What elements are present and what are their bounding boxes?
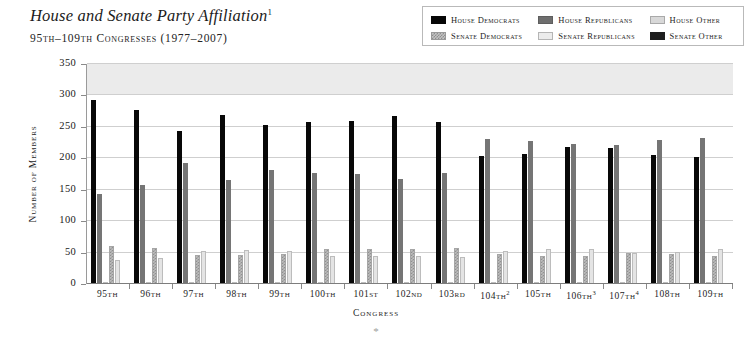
legend-item-house-other: House Other: [650, 15, 743, 25]
bar-group: [690, 64, 733, 284]
bar-house-democrats: [436, 122, 441, 284]
legend-label-house-republicans: House Republicans: [558, 15, 632, 25]
bar-senate-democrats: [669, 254, 674, 284]
bar-senate-republicans: [718, 249, 723, 284]
y-axis-tick: [81, 284, 86, 285]
chart-title: House and Senate Party Affiliation1: [30, 6, 272, 26]
bar-set: [432, 64, 475, 284]
x-axis-tick: [732, 284, 733, 289]
bar-house-republicans: [528, 141, 533, 284]
bar-house-democrats: [608, 148, 613, 284]
bar-set: [518, 64, 561, 284]
bar-senate-democrats: [454, 248, 459, 284]
bar-set: [130, 64, 173, 284]
footnote-asterisk: *: [0, 325, 752, 337]
x-axis-label-96th: 96th: [129, 289, 172, 301]
bar-senate-republicans: [158, 258, 163, 284]
house-other-swatch-icon: [650, 16, 665, 24]
x-axis-label-95th: 95th: [86, 289, 129, 301]
senate-republicans-swatch-icon: [538, 32, 553, 40]
title-block: House and Senate Party Affiliation1 95th…: [30, 6, 272, 44]
bar-group: [518, 64, 561, 284]
x-axis-title: Congress: [0, 308, 752, 318]
bar-group: [475, 64, 518, 284]
senate-democrats-swatch-icon: [431, 32, 446, 40]
y-axis-tick: [81, 190, 86, 191]
x-axis-label-97th: 97th: [172, 289, 215, 301]
bar-set: [647, 64, 690, 284]
y-axis-tick-label: 350: [36, 57, 76, 68]
bar-senate-democrats: [583, 256, 588, 284]
y-axis-tick: [81, 64, 86, 65]
legend-item-senate-republicans: Senate Republicans: [538, 31, 649, 41]
bar-house-republicans: [700, 138, 705, 284]
x-axis-label-109th: 109th: [689, 289, 732, 301]
y-axis-tick: [81, 95, 86, 96]
bar-senate-democrats: [367, 249, 372, 284]
y-axis-title-text: Number of Members: [28, 125, 38, 222]
bar-house-democrats: [392, 116, 397, 284]
bar-group: [432, 64, 475, 284]
x-axis-label-98th: 98th: [215, 289, 258, 301]
bar-senate-democrats: [626, 253, 631, 284]
y-axis-tick-label: 50: [36, 246, 76, 257]
x-axis-label-106th: 106th3: [560, 289, 603, 301]
bar-senate-republicans: [201, 251, 206, 284]
legend-label-house-other: House Other: [670, 15, 721, 25]
bar-senate-republicans: [675, 252, 680, 284]
bar-house-republicans: [614, 145, 619, 284]
bar-set: [604, 64, 647, 284]
bar-senate-democrats: [540, 256, 545, 284]
legend-label-senate-republicans: Senate Republicans: [558, 31, 635, 41]
plot-area: [86, 64, 733, 284]
legend-label-senate-democrats: Senate Democrats: [451, 31, 522, 41]
bar-set: [690, 64, 733, 284]
bar-senate-republicans: [632, 253, 637, 284]
house-democrats-swatch-icon: [431, 16, 446, 24]
bar-senate-democrats: [281, 254, 286, 284]
x-axis-label-104th: 104th2: [474, 289, 517, 301]
y-axis-tick-label: 150: [36, 183, 76, 194]
bar-house-republicans: [226, 180, 231, 284]
bar-house-republicans: [140, 185, 145, 284]
bar-house-democrats: [522, 154, 527, 284]
bar-senate-democrats: [712, 256, 717, 284]
legend-label-house-democrats: House Democrats: [451, 15, 520, 25]
bar-set: [87, 64, 130, 284]
x-axis-label-108th: 108th: [646, 289, 689, 301]
bar-set: [259, 64, 302, 284]
senate-other-swatch-icon: [650, 32, 665, 40]
chart-legend: House Democrats House Republicans House …: [422, 6, 744, 46]
bar-senate-republicans: [416, 256, 421, 284]
bar-group: [345, 64, 388, 284]
bar-house-republicans: [571, 144, 576, 284]
x-axis-label-99th: 99th: [258, 289, 301, 301]
title-footnote-marker: 1: [267, 7, 272, 17]
bar-house-democrats: [565, 147, 570, 284]
y-axis-tick-label: 250: [36, 120, 76, 131]
bar-group: [647, 64, 690, 284]
bar-group: [216, 64, 259, 284]
y-axis-tick: [81, 127, 86, 128]
y-axis-tick: [81, 158, 86, 159]
x-axis-label-100th: 100th: [301, 289, 344, 301]
bar-senate-republicans: [589, 249, 594, 284]
x-label-footnote-marker: 3: [592, 289, 596, 296]
bar-set: [561, 64, 604, 284]
bar-house-republicans: [442, 173, 447, 284]
legend-item-senate-other: Senate Other: [650, 31, 743, 41]
bar-house-republicans: [183, 163, 188, 284]
bar-house-republicans: [312, 173, 317, 284]
bar-group: [561, 64, 604, 284]
bar-set: [302, 64, 345, 284]
x-axis-labels: 95th96th97th98th99th100th101st102nd103rd…: [86, 289, 732, 301]
y-axis-tick-label: 300: [36, 88, 76, 99]
legend-item-senate-democrats: Senate Democrats: [423, 31, 538, 41]
bar-house-republicans: [355, 174, 360, 284]
x-axis-label-105th: 105th: [517, 289, 560, 301]
bar-group: [259, 64, 302, 284]
bar-groups: [87, 64, 733, 284]
legend-label-senate-other: Senate Other: [670, 31, 723, 41]
bar-senate-democrats: [410, 249, 415, 284]
bar-senate-democrats: [109, 246, 114, 284]
